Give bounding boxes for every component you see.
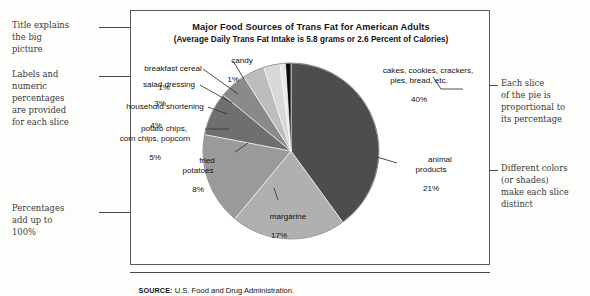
chart-frame: Major Food Sources of Trans Fat for Amer… bbox=[130, 10, 490, 265]
source-note: SOURCE: U.S. Food and Drug Administratio… bbox=[130, 277, 294, 296]
pie-chart: cakes, cookies, crackers, pies, bread, e… bbox=[131, 11, 491, 266]
pie-leader-animal-products bbox=[377, 157, 397, 163]
pie-label-fried-potatoes-percent: 8% bbox=[192, 185, 204, 194]
pie-label-candy-text: candy bbox=[231, 56, 253, 65]
pie-label-cakes-percent: 40% bbox=[411, 95, 427, 104]
pie-label-margarine: margarine 17% bbox=[239, 203, 319, 250]
annotation-percentages-add-up: Percentages add up to 100% bbox=[12, 203, 96, 239]
pie-label-candy-percent: 1% bbox=[227, 75, 239, 84]
pie-label-animal-products-text: animal products bbox=[415, 155, 451, 173]
source-value: U.S. Food and Drug Administration. bbox=[173, 286, 295, 295]
annotation-labels-and-percentages: Labels and numeric percentages are provi… bbox=[12, 69, 96, 129]
annotation-different-colors: Different colors (or shades) make each s… bbox=[501, 163, 590, 211]
annotation-each-slice-proportional: Each slice of the pie is proportional to… bbox=[501, 78, 590, 126]
pie-label-candy: candy 1% bbox=[203, 47, 263, 94]
pie-label-breakfast-cereal-text: breakfast cereal bbox=[144, 64, 202, 73]
pie-label-animal-products-percent: 21% bbox=[423, 184, 439, 193]
pie-label-margarine-percent: 17% bbox=[271, 231, 287, 240]
pie-label-cakes: cakes, cookies, crackers, pies, bread, e… bbox=[349, 57, 489, 113]
pie-label-breakfast-cereal: breakfast cereal 1% bbox=[123, 55, 205, 102]
pie-label-potato-chips-percent: 5% bbox=[149, 153, 161, 162]
source-divider bbox=[130, 272, 490, 273]
pie-label-margarine-text: margarine bbox=[270, 212, 306, 221]
figure-page: Title explains the big picture Labels an… bbox=[0, 0, 590, 296]
pie-label-cakes-text: cakes, cookies, crackers, pies, bread, e… bbox=[383, 66, 473, 84]
annotation-title-explains: Title explains the big picture bbox=[12, 20, 96, 56]
pie-label-breakfast-cereal-percent: 1% bbox=[158, 83, 170, 92]
pie-label-animal-products: animal products 21% bbox=[399, 146, 463, 202]
pie-label-household-shortening-percent: 4% bbox=[150, 121, 162, 130]
source-label: SOURCE: bbox=[138, 286, 172, 295]
